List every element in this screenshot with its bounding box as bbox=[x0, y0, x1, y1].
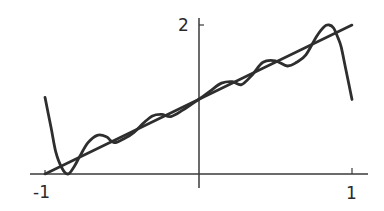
y-tick-label-2: 2 bbox=[178, 15, 189, 35]
x-tick-label-minus-1: -1 bbox=[33, 182, 50, 202]
chart: -1 1 2 bbox=[0, 0, 384, 211]
x-tick-label-1: 1 bbox=[346, 183, 357, 203]
